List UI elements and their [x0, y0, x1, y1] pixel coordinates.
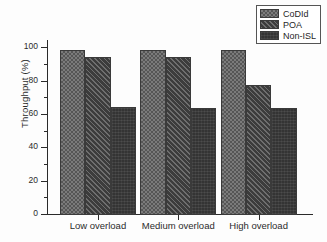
y-tick-label: 40 — [29, 141, 38, 151]
y-tick: 20 — [41, 181, 47, 182]
bar-codid — [140, 50, 165, 215]
y-tick-label: 0 — [33, 208, 38, 218]
y-tick-label: 20 — [29, 175, 38, 185]
legend-item-poa: POA — [260, 19, 316, 30]
bar-poa — [246, 85, 271, 215]
y-tick-minor — [44, 131, 48, 132]
bar-non-isl — [191, 108, 216, 215]
y-tick-minor — [44, 97, 48, 98]
y-tick-minor — [44, 197, 48, 198]
legend-label-poa: POA — [283, 20, 302, 30]
y-tick: 0 — [41, 214, 47, 215]
bar-poa — [85, 57, 110, 215]
y-tick-label: 100 — [24, 41, 38, 51]
y-tick-minor — [44, 64, 48, 65]
y-axis-line — [47, 40, 48, 215]
legend-swatch-poa-icon — [260, 20, 279, 29]
y-tick: 100 — [41, 47, 47, 48]
legend-swatch-codid-icon — [260, 9, 279, 18]
chart-legend: CoDId POA Non-ISL — [256, 5, 321, 44]
y-tick: 60 — [41, 114, 47, 115]
bar-non-isl — [111, 107, 136, 215]
x-category-label: Medium overload — [142, 220, 215, 231]
y-tick-label: 80 — [29, 75, 38, 85]
x-category-label: Low overload — [70, 220, 127, 231]
legend-label-codid: CoDId — [283, 9, 309, 19]
bar-poa — [166, 57, 191, 215]
x-category-label: High overload — [229, 220, 288, 231]
plot-area: 020406080100 — [47, 40, 313, 215]
bar-codid — [60, 50, 85, 215]
bar-non-isl — [271, 108, 296, 215]
throughput-bar-chart: Throughput (%) 020406080100 Low overload… — [0, 0, 327, 242]
y-tick-label: 60 — [29, 108, 38, 118]
legend-swatch-non-isl-icon — [260, 31, 279, 40]
legend-item-non-isl: Non-ISL — [260, 30, 316, 41]
bar-codid — [221, 50, 246, 215]
legend-label-non-isl: Non-ISL — [283, 31, 316, 41]
y-tick: 80 — [41, 81, 47, 82]
y-tick: 40 — [41, 147, 47, 148]
legend-item-codid: CoDId — [260, 8, 316, 19]
y-tick-minor — [44, 164, 48, 165]
